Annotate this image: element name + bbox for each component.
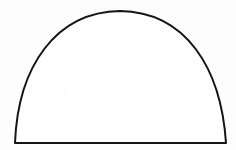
arch-drawing <box>0 0 236 150</box>
figure-canvas: Hand-drawn closed arch outline, parabola… <box>0 0 236 150</box>
arch-outline-path <box>15 11 226 143</box>
